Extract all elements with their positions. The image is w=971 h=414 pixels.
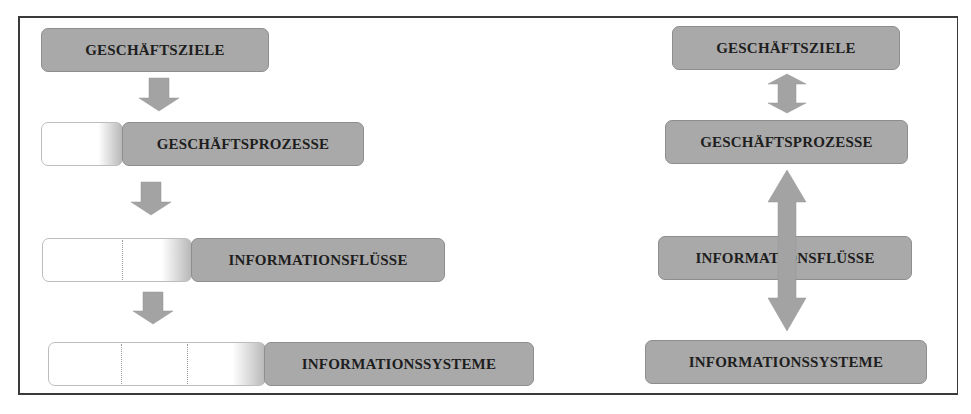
down-arrow-icon: [132, 292, 174, 326]
double-arrow-long-icon: [767, 170, 807, 332]
left-box-informationsfluesse: INFORMATIONSFLÜSSE: [191, 238, 445, 282]
left-label-geschaeftsziele: GESCHÄFTSZIELE: [85, 42, 225, 59]
left-white-segments-2: [42, 238, 192, 282]
segment-divider: [187, 344, 188, 384]
right-label-geschaeftsprozesse: GESCHÄFTSPROZESSE: [700, 134, 873, 151]
right-box-geschaeftsziele: GESCHÄFTSZIELE: [672, 26, 900, 70]
left-label-geschaeftsprozesse: GESCHÄFTSPROZESSE: [157, 136, 330, 153]
segment-divider: [122, 240, 123, 280]
left-label-informationsfluesse: INFORMATIONSFLÜSSE: [228, 252, 407, 269]
segment-divider: [121, 344, 122, 384]
right-label-informationssysteme: INFORMATIONSSYSTEME: [689, 354, 883, 371]
right-box-informationssysteme: INFORMATIONSSYSTEME: [645, 340, 927, 384]
down-arrow-icon: [130, 182, 172, 216]
right-label-geschaeftsziele: GESCHÄFTSZIELE: [716, 40, 856, 57]
left-box-geschaeftsziele: GESCHÄFTSZIELE: [41, 28, 269, 72]
left-white-segments-1: [41, 122, 123, 166]
left-box-geschaeftsprozesse: GESCHÄFTSPROZESSE: [122, 122, 364, 166]
left-white-segments-3: [48, 342, 266, 386]
down-arrow-icon: [138, 78, 180, 112]
left-label-informationssysteme: INFORMATIONSSYSTEME: [302, 356, 496, 373]
right-box-geschaeftsprozesse: GESCHÄFTSPROZESSE: [665, 120, 908, 164]
left-box-informationssysteme: INFORMATIONSSYSTEME: [264, 342, 534, 386]
double-arrow-short-icon: [767, 74, 807, 114]
